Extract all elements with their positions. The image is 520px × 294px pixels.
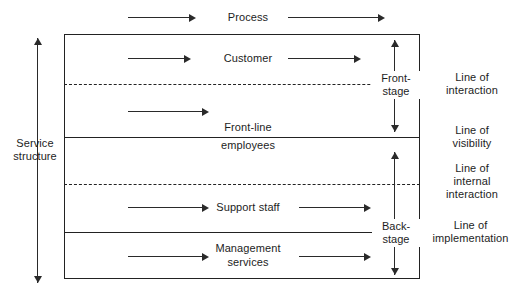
stage-label-back-stage: Back- stage [372, 219, 420, 247]
boundary-label-line-of-visibility-line1: Line of [425, 124, 519, 137]
arrow-head [189, 14, 196, 22]
boundary-label-line-of-internal-interaction-line2: internal [425, 175, 519, 188]
arrow-head-up [34, 38, 42, 45]
row-label-support-staff: Support staff [198, 201, 298, 214]
arrow-head [354, 55, 361, 63]
line-of-visibility-rule [64, 137, 420, 138]
boundary-label-line-of-interaction-line2: interaction [425, 84, 519, 97]
arrow-head-up [391, 40, 399, 47]
service-blueprint-diagram: Service structure Process Customer Front… [0, 0, 520, 294]
arrow-shaft [288, 17, 378, 18]
arrow-shaft [128, 256, 202, 257]
arrow-shaft [394, 152, 395, 275]
row-label-front-line-employees-line1: Front-line [198, 121, 298, 134]
boundary-label-line-of-internal-interaction-line3: interaction [425, 188, 519, 201]
arrow-shaft [299, 207, 364, 208]
customer-arrow-right [288, 54, 361, 63]
arrow-head-down [34, 276, 42, 283]
boundary-label-line-of-interaction-line1: Line of [425, 71, 519, 84]
arrow-head [364, 253, 371, 261]
process-arrow-left [128, 13, 196, 22]
service-structure-label-line2: structure [0, 150, 70, 163]
boundary-label-line-of-visibility-line2: visibility [425, 137, 519, 150]
arrow-head-down [391, 268, 399, 275]
boundary-label-line-of-internal-interaction-line1: Line of [425, 162, 519, 175]
arrow-head [378, 14, 385, 22]
arrow-shaft [299, 256, 364, 257]
row-label-management-services-line1: Management [198, 242, 298, 255]
row-label-customer: Customer [198, 52, 298, 65]
boundary-label-line-of-implementation: Line of implementation [421, 219, 520, 245]
arrow-head [184, 55, 191, 63]
boundary-label-line-of-visibility: Line of visibility [425, 124, 519, 150]
arrow-shaft [288, 58, 354, 59]
process-arrow-right [288, 13, 385, 22]
management-services-arrow-right [299, 252, 371, 261]
row-label-management-services-line2: services [198, 256, 298, 269]
boundary-label-line-of-interaction: Line of interaction [425, 71, 519, 97]
support-staff-arrow-right [299, 203, 371, 212]
stage-label-front-stage: Front- stage [372, 71, 420, 99]
arrow-shaft [128, 58, 184, 59]
stage-label-back-stage-line2: stage [374, 233, 418, 246]
line-of-internal-interaction-rule [64, 184, 420, 185]
line-of-implementation-rule [64, 232, 420, 233]
service-structure-label-line1: Service [0, 137, 70, 150]
row-label-front-line-employees-line2: employees [198, 139, 298, 152]
arrow-shaft [128, 207, 202, 208]
arrow-head-up [391, 152, 399, 159]
row-label-process: Process [198, 11, 298, 24]
arrow-shaft [128, 17, 189, 18]
line-of-interaction-rule [64, 84, 420, 85]
boundary-label-line-of-implementation-line2: implementation [421, 232, 520, 245]
arrow-head [364, 204, 371, 212]
arrow-head-down [391, 125, 399, 132]
back-stage-arrow [390, 152, 399, 275]
front-line-employees-arrow-left [128, 107, 209, 116]
boundary-label-line-of-internal-interaction: Line of internal interaction [425, 162, 519, 201]
arrow-head [202, 108, 209, 116]
stage-label-back-stage-line1: Back- [374, 220, 418, 233]
support-staff-arrow-left [128, 203, 209, 212]
stage-label-front-stage-line2: stage [374, 85, 418, 98]
boundary-label-line-of-implementation-line1: Line of [421, 219, 520, 232]
stage-label-front-stage-line1: Front- [374, 72, 418, 85]
customer-arrow-left [128, 54, 191, 63]
arrow-shaft [128, 111, 202, 112]
management-services-arrow-left [128, 252, 209, 261]
